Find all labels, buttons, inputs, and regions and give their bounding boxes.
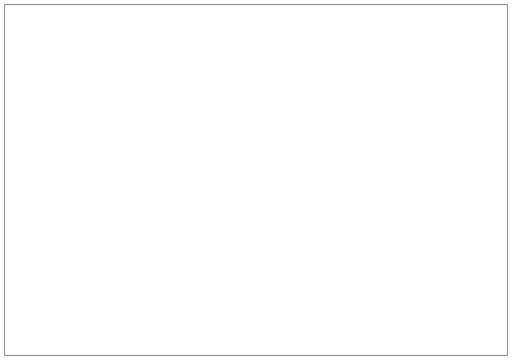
image-frame-border <box>4 4 508 356</box>
chart-container: PERCENT OF GROUP IN POVERTY 510152025303… <box>0 0 515 363</box>
